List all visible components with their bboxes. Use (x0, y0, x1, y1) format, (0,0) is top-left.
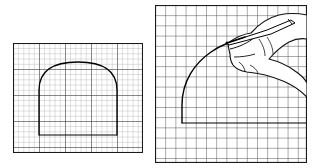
finished-curve-panel (13, 43, 143, 153)
figure-root: Drawing a curve on graph paper Two-panel… (0, 0, 312, 168)
left-panel-svg (13, 43, 143, 153)
pen-contact-point (226, 42, 229, 45)
left-panel-major-grid (13, 43, 143, 153)
drawing-in-progress-panel (155, 5, 307, 163)
right-panel-svg (155, 5, 307, 163)
